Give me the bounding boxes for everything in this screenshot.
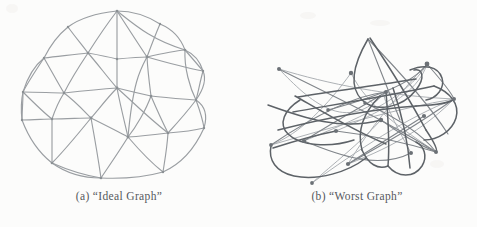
ideal-graph-edges — [21, 11, 205, 178]
worst-graph-drawing — [238, 0, 476, 190]
ideal-graph-svg — [0, 0, 238, 190]
figure-panel-worst-graph: (b) “Worst Graph” — [238, 0, 476, 227]
worst-graph-svg — [238, 0, 476, 190]
ideal-graph-nodes — [21, 10, 205, 180]
caption-ideal-graph: (a) “Ideal Graph” — [0, 190, 238, 202]
caption-worst-graph: (b) “Worst Graph” — [238, 190, 476, 202]
figure-page: (a) “Ideal Graph” — [0, 0, 477, 227]
ideal-graph-drawing — [0, 0, 238, 190]
figure-panel-ideal-graph: (a) “Ideal Graph” — [0, 0, 238, 227]
